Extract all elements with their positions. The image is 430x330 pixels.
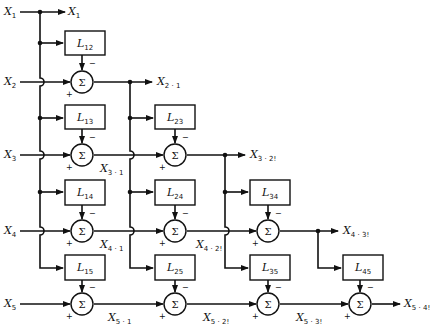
svg-text:X1: X1: [67, 5, 80, 20]
svg-text:Σ: Σ: [264, 226, 271, 237]
svg-text:+: +: [66, 312, 73, 321]
svg-text:X2: X2: [3, 75, 16, 90]
svg-text:X4: X4: [3, 224, 17, 239]
svg-text:X5 · 4!: X5 · 4!: [403, 297, 430, 312]
svg-text:+: +: [252, 239, 259, 248]
bus-1: [40, 12, 63, 268]
svg-text:+: +: [159, 163, 166, 172]
svg-text:−: −: [89, 283, 96, 292]
svg-text:−: −: [89, 209, 96, 218]
svg-text:X5 · 3!: X5 · 3!: [295, 311, 322, 326]
svg-text:+: +: [344, 312, 351, 321]
svg-text:+: +: [66, 239, 73, 248]
svg-text:Σ: Σ: [171, 226, 178, 237]
svg-text:+: +: [159, 239, 166, 248]
svg-text:−: −: [367, 283, 374, 292]
block-diagram: Σ Σ Σ Σ Σ Σ Σ Σ Σ Σ + + + + + + + + + + …: [0, 0, 430, 330]
svg-text:Σ: Σ: [78, 77, 85, 88]
svg-text:−: −: [182, 283, 189, 292]
svg-text:X5: X5: [3, 297, 16, 312]
svg-text:+: +: [159, 312, 166, 321]
svg-text:X3 · 1: X3 · 1: [99, 162, 123, 177]
svg-text:Σ: Σ: [171, 150, 178, 161]
svg-text:+: +: [252, 312, 259, 321]
svg-text:−: −: [182, 133, 189, 142]
svg-text:−: −: [182, 209, 189, 218]
diagram-canvas: Σ Σ Σ Σ Σ Σ Σ Σ Σ Σ + + + + + + + + + + …: [0, 0, 430, 330]
svg-text:Σ: Σ: [171, 299, 178, 310]
svg-text:X3: X3: [3, 148, 16, 163]
svg-text:−: −: [89, 59, 96, 68]
svg-text:X2 · 1: X2 · 1: [156, 75, 180, 90]
svg-text:X3 · 2!: X3 · 2!: [249, 148, 276, 163]
svg-text:Σ: Σ: [356, 299, 363, 310]
svg-text:Σ: Σ: [78, 150, 85, 161]
svg-text:X4 · 1: X4 · 1: [99, 238, 123, 253]
svg-text:Σ: Σ: [78, 299, 85, 310]
svg-text:X4 · 2!: X4 · 2!: [195, 238, 222, 253]
svg-text:+: +: [66, 163, 73, 172]
svg-text:−: −: [275, 209, 282, 218]
svg-text:X5 · 2!: X5 · 2!: [202, 311, 229, 326]
svg-text:−: −: [275, 283, 282, 292]
svg-text:Σ: Σ: [264, 299, 271, 310]
svg-text:−: −: [89, 133, 96, 142]
svg-text:+: +: [66, 90, 73, 99]
svg-text:X4 · 3!: X4 · 3!: [342, 224, 369, 239]
svg-text:Σ: Σ: [78, 226, 85, 237]
svg-text:X1: X1: [3, 5, 16, 20]
svg-text:X5 · 1: X5 · 1: [107, 311, 131, 326]
